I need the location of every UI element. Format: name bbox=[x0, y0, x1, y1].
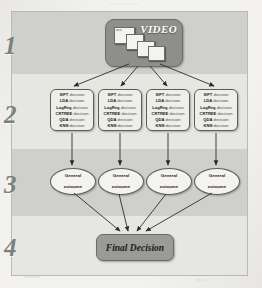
stage-number-1: 1 bbox=[4, 33, 17, 58]
outcome-line-1: General bbox=[112, 173, 130, 179]
general-outcome-2[interactable]: Generaloutcome bbox=[98, 168, 144, 195]
figure-canvas: 1 2 3 4 VIDEO face SIFT decision LDA dec… bbox=[0, 0, 262, 288]
outcome-line-2: outcome bbox=[160, 184, 178, 190]
scan-speckle bbox=[24, 276, 40, 278]
outcome-line-1: General bbox=[64, 173, 82, 179]
decision-box-3[interactable]: SIFT decision LDA decision LogReg decisi… bbox=[146, 89, 190, 131]
decision-box-2[interactable]: SIFT decision LDA decision LogReg decisi… bbox=[98, 89, 142, 131]
final-decision-label: Final Decision bbox=[106, 243, 164, 253]
general-outcome-3[interactable]: Generaloutcome bbox=[146, 168, 192, 195]
scan-speckle bbox=[110, 3, 138, 5]
scan-speckle bbox=[196, 279, 206, 281]
stage-number-2: 2 bbox=[4, 102, 17, 127]
outcome-line-2: outcome bbox=[112, 184, 130, 190]
general-outcome-4[interactable]: Generaloutcome bbox=[194, 168, 240, 195]
general-outcome-1[interactable]: Generaloutcome bbox=[50, 168, 96, 195]
outcome-line-1: General bbox=[160, 173, 178, 179]
decision-box-1[interactable]: SIFT decision LDA decision LogReg decisi… bbox=[50, 89, 94, 131]
video-frame-thumbnail-4 bbox=[148, 46, 165, 61]
final-decision-node[interactable]: Final Decision bbox=[96, 234, 174, 261]
outcome-line-1: General bbox=[208, 173, 226, 179]
decision-box-4[interactable]: SIFT decision LDA decision LogReg decisi… bbox=[194, 89, 238, 131]
decision-line: KNN decision bbox=[99, 123, 141, 129]
stage-number-3: 3 bbox=[4, 172, 17, 197]
decision-line: KNN decision bbox=[51, 123, 93, 129]
outcome-line-2: outcome bbox=[64, 184, 82, 190]
stage-number-4: 4 bbox=[4, 235, 17, 260]
outcome-line-2: outcome bbox=[208, 184, 226, 190]
decision-line: KNN decision bbox=[147, 123, 189, 129]
video-label: VIDEO bbox=[140, 23, 177, 35]
video-frame-thumb-text: face bbox=[116, 29, 131, 32]
video-input-node[interactable]: VIDEO face bbox=[105, 19, 183, 67]
decision-line: KNN decision bbox=[195, 123, 237, 129]
